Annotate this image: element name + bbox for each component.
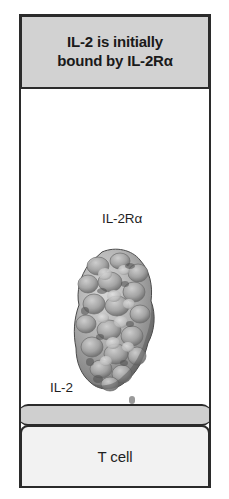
figure-header-box: IL-2 is initially bound by IL-2Rα — [20, 15, 210, 89]
t-cell-box: T cell — [20, 425, 210, 488]
cell-membrane-icon — [19, 404, 211, 426]
illustration-stage: IL-2Rα IL-2 — [21, 90, 209, 406]
label-t-cell: T cell — [98, 448, 133, 465]
molecular-surface-icon — [72, 244, 158, 396]
figure-title: IL-2 is initially bound by IL-2Rα — [57, 33, 172, 71]
label-il2-receptor-alpha: IL-2Rα — [102, 211, 142, 226]
label-il2: IL-2 — [50, 380, 73, 395]
figure-panel: IL-2 is initially bound by IL-2Rα IL-2Rα… — [19, 14, 211, 488]
